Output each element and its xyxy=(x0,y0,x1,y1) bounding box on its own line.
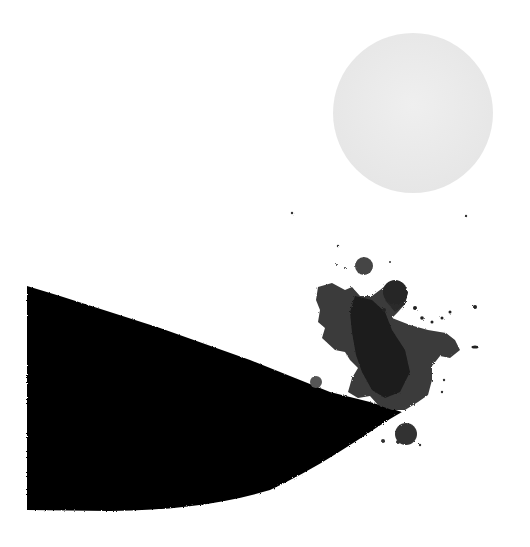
moon-circle xyxy=(333,33,493,193)
artwork-canvas xyxy=(0,0,530,547)
